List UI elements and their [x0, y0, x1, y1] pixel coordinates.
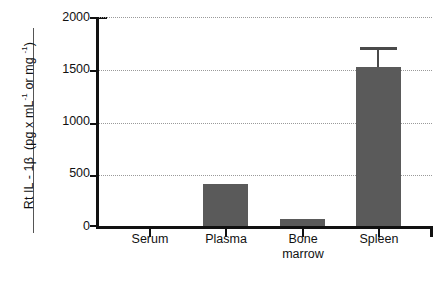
y-tick-label-1000: 1000	[46, 115, 90, 127]
x-category-bone: Bone	[261, 232, 345, 246]
x-category-marrow: marrow	[261, 247, 345, 261]
x-category-plasma: Plasma	[184, 232, 268, 246]
error-bar-line-spleen	[377, 47, 379, 67]
y-axis-units-open: (pg x mL	[22, 100, 36, 157]
y-axis-exponent-2: -1	[20, 46, 29, 53]
y-axis-units-mid: or mg	[22, 54, 36, 94]
y-tick-label-1500: 1500	[46, 63, 90, 75]
y-axis-exponent-1: -1	[20, 93, 29, 100]
bar-bone-marrow[interactable]	[280, 219, 325, 226]
y-axis-tick-labels: 2000 1500 1000 500 0	[44, 0, 90, 281]
y-tick-mark-2000	[90, 17, 97, 19]
error-bar-cap-spleen	[360, 47, 397, 50]
y-tick-mark-500	[90, 175, 97, 177]
y-tick-label-2000: 2000	[46, 11, 90, 23]
y-tick-mark-1000	[90, 123, 97, 125]
y-axis-units-close: )	[22, 42, 36, 46]
gridline-2000	[99, 17, 432, 18]
bar-plasma[interactable]	[203, 184, 248, 226]
bar-spleen[interactable]	[356, 67, 401, 226]
y-tick-mark-0	[90, 225, 97, 227]
y-tick-label-0: 0	[46, 220, 90, 232]
y-tick-mark-1500	[90, 70, 97, 72]
x-axis-category-labels: Serum Plasma Bone marrow Spleen	[96, 232, 432, 280]
x-category-spleen: Spleen	[337, 232, 421, 246]
plot-area	[96, 17, 432, 228]
bar-chart-figure: Rt IL - 1β (pg x mL-1 or mg -1) 2000 150…	[0, 0, 447, 281]
y-axis-title-group: Rt IL - 1β (pg x mL-1 or mg -1)	[0, 0, 44, 281]
y-axis-title: Rt IL - 1β (pg x mL-1 or mg -1)	[20, 26, 35, 226]
y-tick-label-500: 500	[46, 167, 90, 179]
x-category-serum: Serum	[108, 232, 192, 246]
x-axis-line	[96, 226, 433, 229]
y-axis-analyte: Rt IL - 1β	[22, 157, 36, 209]
